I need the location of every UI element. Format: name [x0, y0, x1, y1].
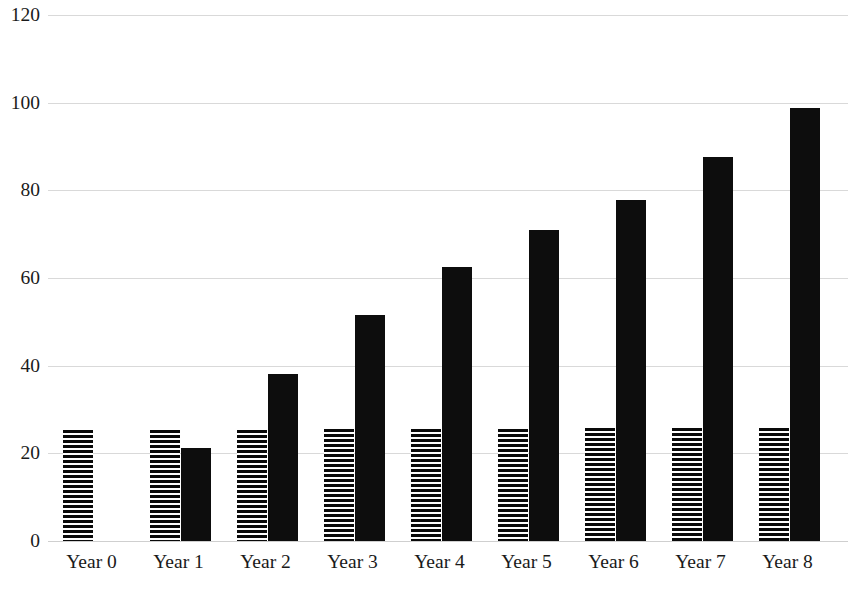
x-tick-label-year-0: Year 0 — [48, 552, 135, 572]
bar-group-year-2: Year 2 — [222, 0, 309, 591]
bar-group-year-4: Year 4 — [396, 0, 483, 591]
x-tick-label-year-1: Year 1 — [135, 552, 222, 572]
bar-striped-year-4 — [411, 429, 441, 541]
bar-groups: Year 0 Year 1 Year 2 Year 3 Year 4 — [48, 0, 848, 591]
bar-striped-year-8 — [759, 428, 789, 541]
y-tick-label-60: 60 — [0, 268, 40, 288]
y-axis-tick-labels: 120 100 80 60 40 20 0 — [0, 0, 40, 591]
bar-striped-year-3 — [324, 429, 354, 541]
bar-striped-year-2 — [237, 430, 267, 541]
y-tick-label-0: 0 — [0, 531, 40, 551]
bar-group-year-3: Year 3 — [309, 0, 396, 591]
x-tick-label-year-8: Year 8 — [744, 552, 831, 572]
y-tick-label-40: 40 — [0, 356, 40, 376]
x-tick-label-year-3: Year 3 — [309, 552, 396, 572]
bar-solid-year-2 — [268, 374, 298, 541]
bar-striped-year-7 — [672, 428, 702, 541]
bar-solid-year-5 — [529, 230, 559, 541]
bar-solid-year-4 — [442, 267, 472, 541]
bar-striped-year-5 — [498, 429, 528, 541]
bar-group-year-5: Year 5 — [483, 0, 570, 591]
bar-solid-year-8 — [790, 108, 820, 541]
y-tick-label-80: 80 — [0, 180, 40, 200]
x-tick-label-year-5: Year 5 — [483, 552, 570, 572]
x-tick-label-year-2: Year 2 — [222, 552, 309, 572]
bar-group-year-0: Year 0 — [48, 0, 135, 591]
y-tick-label-120: 120 — [0, 5, 40, 25]
x-tick-label-year-6: Year 6 — [570, 552, 657, 572]
bar-solid-year-6 — [616, 200, 646, 541]
y-tick-label-20: 20 — [0, 443, 40, 463]
bar-group-year-8: Year 8 — [744, 0, 831, 591]
bar-group-year-6: Year 6 — [570, 0, 657, 591]
bar-striped-year-0 — [63, 430, 93, 541]
bar-group-year-1: Year 1 — [135, 0, 222, 591]
bar-chart: 120 100 80 60 40 20 0 Year 0 Year 1 Year… — [0, 0, 848, 591]
y-tick-label-100: 100 — [0, 93, 40, 113]
bar-solid-year-3 — [355, 315, 385, 541]
x-tick-label-year-4: Year 4 — [396, 552, 483, 572]
bar-striped-year-6 — [585, 428, 615, 541]
bar-solid-year-1 — [181, 448, 211, 541]
x-tick-label-year-7: Year 7 — [657, 552, 744, 572]
bar-striped-year-1 — [150, 430, 180, 541]
bar-group-year-7: Year 7 — [657, 0, 744, 591]
bar-solid-year-7 — [703, 157, 733, 541]
